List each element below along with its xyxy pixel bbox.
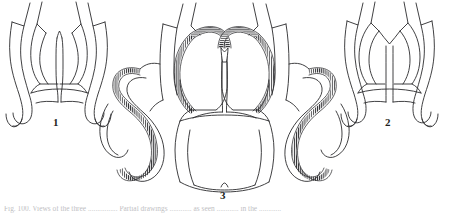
panel-1-septum-right-edge <box>61 38 63 102</box>
panel-2-left-hook <box>348 119 357 126</box>
panel-1-drawing <box>6 2 111 127</box>
panel-2-base-right-connector <box>393 101 415 103</box>
panel-3-left-lobe-attachment-upper <box>140 63 160 69</box>
panel-2-base-left-connector <box>364 101 386 103</box>
panel-3-lower-left-inner-wall <box>188 130 194 185</box>
figure-label-1: 1 <box>53 117 59 128</box>
panel-2-left-cusp <box>359 23 385 84</box>
panel-2-left-tube-cut <box>347 3 363 25</box>
panel-3-right-cusp-body <box>222 52 269 110</box>
panel-3-lower-right-inner-wall <box>255 130 261 185</box>
panel-3-drawing <box>100 3 349 192</box>
panel-3-central-right-outer-wall <box>286 24 289 100</box>
panel-2-right-tube-cut <box>416 3 432 25</box>
panel-3-left-cusp-body <box>180 52 227 110</box>
panel-3-lower-left-wall <box>175 121 180 182</box>
panel-3-right-lobe-hatch <box>294 70 333 178</box>
panel-3-right-lobe-attachment-upper <box>289 63 309 69</box>
panel-3-central-notch <box>221 48 228 62</box>
panel-3-central-left-outer-wall <box>160 24 163 100</box>
panel-3-left-lobe-attachment-lower <box>150 100 163 111</box>
figure-caption-strip: Fig. 100. Views of the three ...........… <box>0 206 450 214</box>
panel-3-bottom-notch <box>221 183 228 187</box>
panel-2-right-tube-cut-inner <box>400 2 408 31</box>
panel-1-right-tube-cut <box>88 3 105 26</box>
panel-1-outer-right-wall <box>94 22 111 127</box>
panel-1-septum-apex <box>57 31 62 38</box>
panel-2-right-cusp-inner <box>400 31 410 84</box>
panel-1-right-cusp <box>60 24 87 84</box>
figure-illustration <box>0 0 450 214</box>
panel-3-far-left-hook-inner <box>107 111 118 155</box>
panel-1-left-tube-cut <box>12 3 30 26</box>
panel-1-left-cusp-inner <box>40 33 48 84</box>
panel-3-lower-right-wall <box>269 121 274 182</box>
panel-2-base-arc <box>358 89 421 93</box>
panel-2-right-cusp <box>394 23 420 84</box>
panel-3-far-left-hook <box>100 104 128 157</box>
panel-1-right-cusp-inner <box>70 33 78 84</box>
panel-3-right-lobe-attachment-lower <box>286 100 299 111</box>
panel-2-left-cusp-inner <box>369 31 379 84</box>
panel-1-right-tube-cut-inner <box>72 2 81 33</box>
panel-1-base-arc <box>31 89 88 93</box>
panel-1-base-right-connector <box>61 101 83 103</box>
panel-3-right-tube-cut <box>266 4 286 28</box>
figure-label-2: 2 <box>385 117 391 128</box>
panel-3-far-right-hook-inner <box>331 111 342 155</box>
panel-2-left-tube-cut-inner <box>371 2 379 31</box>
panel-3-left-tube-cut <box>163 4 183 28</box>
panel-3-far-right-hook <box>321 104 349 157</box>
panel-2-central-v-notch <box>379 31 400 44</box>
panel-1-septum-left-edge <box>56 38 58 102</box>
panel-1-left-tube-cut-inner <box>37 2 46 33</box>
figure-label-3: 3 <box>220 190 226 201</box>
panel-1-left-cusp <box>31 24 58 84</box>
figure-caption-text: Fig. 100. Views of the three ...........… <box>4 206 450 213</box>
panel-1-outer-left-wall <box>6 22 23 127</box>
panel-1-base-left-connector <box>36 101 58 103</box>
panel-2-drawing <box>341 2 438 127</box>
panel-3-left-lobe-hatch <box>116 70 155 178</box>
panel-2-right-hook <box>422 119 431 126</box>
figure-page: 1 2 3 Fig. 100. Views of the three .....… <box>0 0 450 214</box>
